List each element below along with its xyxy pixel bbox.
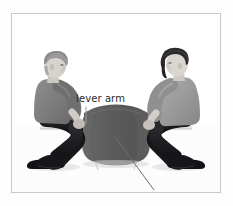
- photo-frame: lever arm pivot: [11, 13, 221, 193]
- figure-root: lever arm pivot: [0, 0, 233, 206]
- pivot-drum: [82, 105, 150, 171]
- annotation-label-lever-arm: lever arm: [76, 93, 125, 104]
